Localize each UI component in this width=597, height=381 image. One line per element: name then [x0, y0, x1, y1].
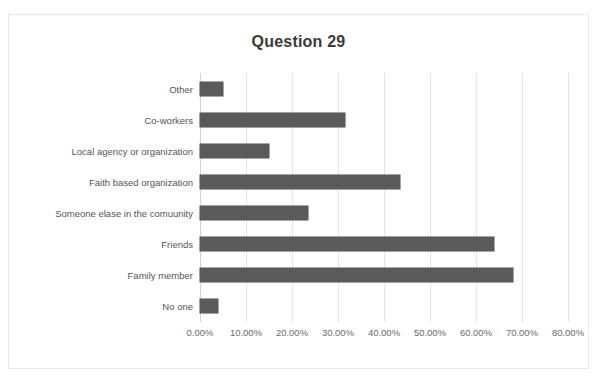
plot-area [200, 73, 568, 322]
bar[interactable] [200, 144, 269, 158]
bar[interactable] [200, 237, 494, 251]
x-tick-label: 0.00% [187, 327, 214, 338]
x-tick-label: 40.00% [368, 327, 400, 338]
bar-row [200, 104, 568, 135]
value-axis-labels: 0.00%10.00%20.00%30.00%40.00%50.00%60.00… [200, 327, 568, 343]
bar-row [200, 198, 568, 229]
bar-row [200, 291, 568, 322]
gridline-80.00 [568, 73, 569, 322]
category-label: No one [21, 301, 193, 312]
category-label: Faith based organization [21, 176, 193, 187]
category-label: Someone elase in the comuunity [21, 208, 193, 219]
chart-title: Question 29 [9, 33, 588, 51]
chart-page: Question 29 OtherCo-workersLocal agency … [0, 0, 597, 381]
bar-row [200, 166, 568, 197]
x-tick-label: 20.00% [276, 327, 308, 338]
x-tick-label: 70.00% [506, 327, 538, 338]
chart-frame: Question 29 OtherCo-workersLocal agency … [8, 14, 589, 369]
category-label: Friends [21, 239, 193, 250]
bar-row [200, 73, 568, 104]
category-label: Other [21, 83, 193, 94]
bar-row [200, 135, 568, 166]
x-tick-label: 30.00% [322, 327, 354, 338]
bar-row [200, 229, 568, 260]
bar[interactable] [200, 206, 308, 220]
bar[interactable] [200, 299, 218, 313]
category-axis-labels: OtherCo-workersLocal agency or organizat… [21, 73, 193, 322]
bar[interactable] [200, 82, 223, 96]
category-label: Co-workers [21, 114, 193, 125]
bar[interactable] [200, 268, 513, 282]
x-tick-label: 80.00% [552, 327, 584, 338]
x-tick-label: 10.00% [230, 327, 262, 338]
bar-row [200, 260, 568, 291]
category-label: Family member [21, 270, 193, 281]
category-label: Local agency or organization [21, 145, 193, 156]
bar[interactable] [200, 175, 400, 189]
bar-series [200, 73, 568, 322]
bar[interactable] [200, 113, 345, 127]
x-tick-label: 50.00% [414, 327, 446, 338]
x-tick-label: 60.00% [460, 327, 492, 338]
